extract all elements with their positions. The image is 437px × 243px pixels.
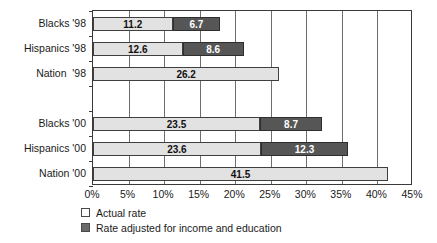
bar-segment: 41.5 [93,167,388,181]
bar-row: 26.2 [93,67,413,81]
bar-segment: 12.3 [261,142,348,156]
bar-value-label: 8.7 [261,118,321,130]
x-axis-label: 40% [356,188,396,200]
bar-value-label: 6.7 [174,18,220,30]
gridline [164,11,165,184]
bar-value-label: 23.6 [94,143,260,155]
bar-row: 41.5 [93,167,413,181]
bar-segment: 12.6 [93,42,183,56]
gridline [200,11,201,184]
gridline [342,11,343,184]
bar-segment: 11.2 [93,17,173,31]
bar-row: 11.26.7 [93,17,413,31]
y-axis-tick [89,11,93,12]
legend-item[interactable]: Rate adjusted for income and education [81,220,282,235]
bar-segment: 23.6 [93,142,261,156]
gridline [235,11,236,184]
y-axis-label: Blacks '00 [0,117,86,129]
bar-segment: 6.7 [173,17,221,31]
bar-value-label: 8.6 [184,43,243,55]
chart-container: Blacks '98Hispanics '98Nation '98Blacks … [0,0,437,243]
y-axis-label: Hispanics '00 [0,142,86,154]
legend-swatch-icon [81,223,90,232]
gridline [129,11,130,184]
x-axis-label: 10% [143,188,183,200]
y-axis-tick [89,161,93,162]
x-axis-label: 45% [392,188,432,200]
bar-row: 23.612.3 [93,142,413,156]
chart-legend: Actual rateRate adjusted for income and … [81,205,282,235]
y-axis-labels: Blacks '98Hispanics '98Nation '98Blacks … [0,0,88,175]
y-axis-label: Nation '98 [0,67,86,79]
x-axis-label: 0% [72,188,112,200]
y-axis-tick [89,36,93,37]
y-axis-tick [89,86,93,87]
x-axis-label: 5% [108,188,148,200]
y-axis-tick [89,186,93,187]
x-axis-label: 25% [250,188,290,200]
bar-row: 12.68.6 [93,42,413,56]
plot-area: 11.26.712.68.626.223.58.723.612.341.5 [92,10,412,185]
y-axis-label: Nation '00 [0,167,86,179]
y-axis-tick [89,111,93,112]
y-axis-label: Hispanics '98 [0,42,86,54]
x-axis-label: 15% [179,188,219,200]
bar-value-label: 41.5 [94,168,387,180]
gridline [306,11,307,184]
bar-segment: 26.2 [93,67,279,81]
y-axis-tick [89,136,93,137]
bar-segment: 8.6 [183,42,244,56]
bar-segment: 23.5 [93,117,260,131]
bar-segment: 8.7 [260,117,322,131]
x-axis-label: 20% [214,188,254,200]
legend-label: Rate adjusted for income and education [96,222,282,234]
bar-row: 23.58.7 [93,117,413,131]
bar-value-label: 12.6 [94,43,182,55]
legend-item[interactable]: Actual rate [81,205,282,220]
bar-value-label: 12.3 [262,143,347,155]
bar-value-label: 11.2 [94,18,172,30]
x-axis-label: 35% [321,188,361,200]
legend-label: Actual rate [96,207,146,219]
legend-swatch-icon [81,208,90,217]
gridline [377,11,378,184]
bar-value-label: 26.2 [94,68,278,80]
y-axis-tick [89,61,93,62]
bar-value-label: 23.5 [94,118,259,130]
x-axis-label: 30% [285,188,325,200]
y-axis-label: Blacks '98 [0,17,86,29]
gridline [271,11,272,184]
